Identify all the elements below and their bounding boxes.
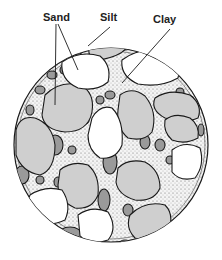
silt-leader-line [88,27,110,46]
clay-label: Clay [153,13,177,25]
sand-grain [42,84,93,132]
sand-grain [110,39,140,44]
silt-label: Silt [100,11,117,23]
sand-grain [172,144,202,179]
sand-grain [78,209,113,242]
sand-label: Sand [43,11,70,23]
soil-diagram: Sand Silt Clay [0,0,222,260]
